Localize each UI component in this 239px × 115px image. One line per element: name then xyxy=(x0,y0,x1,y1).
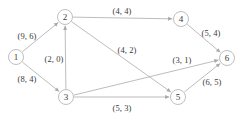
directed-graph-figure: 123456 (9, 6)(8, 4)(2, 0)(4, 4)(4, 2)(3,… xyxy=(0,0,239,115)
node-label-5: 5 xyxy=(176,93,181,102)
edge-label-3-to-5: (5, 3) xyxy=(112,104,131,113)
edge-2-to-4 xyxy=(73,17,172,19)
graph-canvas xyxy=(0,0,239,115)
arrowhead-2-to-4 xyxy=(168,17,172,21)
arrowhead-3-to-2 xyxy=(63,26,67,30)
node-label-6: 6 xyxy=(225,54,230,63)
edge-3-to-6 xyxy=(74,60,219,95)
node-label-4: 4 xyxy=(179,15,184,24)
edge-label-5-to-6: (6, 5) xyxy=(202,78,221,87)
edge-3-to-2 xyxy=(65,26,66,89)
arrowhead-3-to-5 xyxy=(165,95,169,99)
edge-label-1-to-3: (8, 4) xyxy=(17,75,36,84)
node-label-3: 3 xyxy=(64,93,69,102)
edge-label-2-to-5: (4, 2) xyxy=(117,46,136,55)
edge-label-3-to-2: (2, 0) xyxy=(44,55,63,64)
edge-label-1-to-2: (9, 6) xyxy=(17,32,36,41)
node-label-2: 2 xyxy=(63,13,68,22)
edge-2-to-5 xyxy=(72,22,171,92)
node-label-1: 1 xyxy=(14,53,19,62)
arrowhead-3-to-6 xyxy=(214,59,219,63)
arrowhead-2-to-5 xyxy=(166,88,171,92)
edge-label-4-to-6: (5, 4) xyxy=(201,29,220,38)
edge-label-2-to-4: (4, 4) xyxy=(112,7,131,16)
edge-label-3-to-6: (3, 1) xyxy=(172,56,191,65)
